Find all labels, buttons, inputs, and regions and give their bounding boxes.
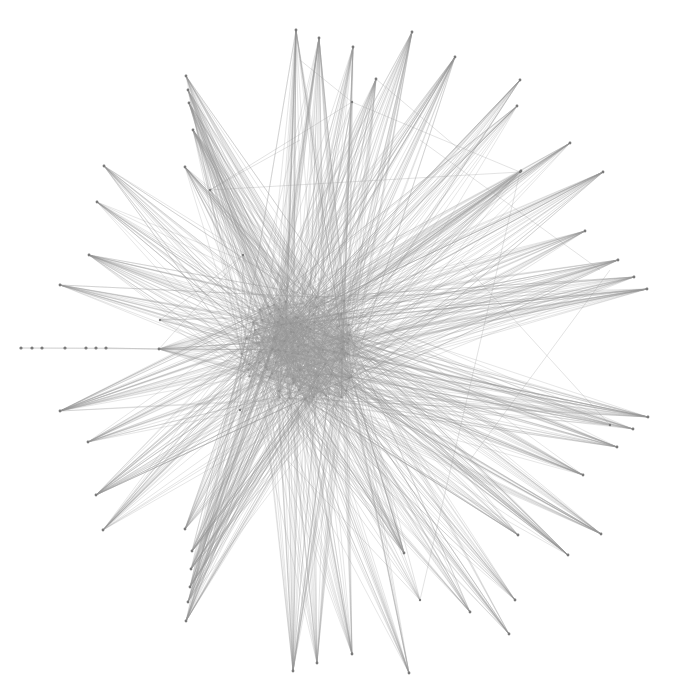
graph-node [351,101,353,103]
graph-node [647,416,650,419]
graph-node [59,410,62,413]
graph-node [338,325,340,327]
graph-node [280,324,282,326]
graph-node [567,554,570,557]
graph-node [318,37,321,40]
graph-node [281,316,283,318]
graph-node [189,586,192,589]
graph-node [454,56,457,59]
graph-node [508,633,511,636]
graph-node [96,201,99,204]
graph-node [279,315,281,317]
graph-node [632,428,635,431]
graph-node [347,353,349,355]
graph-node [343,354,345,356]
graph-node [275,362,277,364]
graph-node [295,316,297,318]
graph-node [325,395,327,397]
graph-edge [350,377,568,555]
graph-node [268,376,270,378]
graph-node [254,329,256,331]
graph-edge [316,32,412,297]
graph-node [285,351,287,353]
graph-node [267,305,269,307]
graph-node [277,321,279,323]
graph-node [104,346,107,349]
graph-node [297,353,299,355]
graph-node [158,348,161,351]
graph-node [271,372,273,374]
graph-node [191,550,194,553]
graph-node [185,620,188,623]
graph-edge [348,354,515,600]
graph-node [265,366,267,368]
graph-node [602,171,605,174]
graph-node [306,326,308,328]
graph-node [285,317,287,319]
graph-node [291,353,293,355]
spoke-edges [60,30,648,673]
graph-node [419,599,421,601]
graph-node [298,389,300,391]
graph-node [346,342,348,344]
graph-node [252,321,254,323]
graph-node [242,254,244,256]
graph-node [351,653,354,656]
graph-node [87,441,90,444]
graph-node [646,288,649,291]
graph-node [278,390,280,392]
graph-node [408,672,411,675]
graph-node [300,323,302,325]
graph-node [30,346,33,349]
graph-node [317,375,319,377]
graph-node [159,319,161,321]
graph-node [84,346,87,349]
network-graph [0,0,673,693]
graph-node [307,351,309,353]
graph-node [192,129,195,132]
graph-node [609,424,611,426]
graph-node [184,166,187,169]
graph-node [352,46,355,49]
graph-node [299,369,301,371]
graph-node [347,338,349,340]
graph-node [290,331,292,333]
graph-node [259,308,261,310]
graph-node [241,353,243,355]
graph-edge [346,391,420,600]
graph-node [342,335,344,337]
graph-node [285,301,287,303]
graph-node [345,352,347,354]
graph-node [341,397,343,399]
graph-node [304,398,306,400]
graph-node [324,363,326,365]
graph-node [187,89,190,92]
graph-node [282,324,284,326]
graph-node [274,350,276,352]
graph-node [312,387,314,389]
graph-node [339,343,341,345]
graph-node [375,78,378,81]
graph-edge [104,166,260,309]
graph-node [258,361,260,363]
graph-node [517,534,520,537]
graph-node [272,348,274,350]
graph-node [239,409,241,411]
graph-node [584,230,587,233]
graph-node [616,446,619,449]
graph-node [259,351,261,353]
graph-node [102,529,105,532]
graph-node [316,306,318,308]
graph-node [617,259,620,262]
graph-node [261,319,263,321]
graph-node [278,349,280,351]
graph-node [600,533,603,536]
graph-node [348,324,350,326]
graph-node [295,29,298,32]
graph-node [19,346,22,349]
graph-nodes [19,29,649,675]
graph-node [569,142,572,145]
graph-node [337,312,339,314]
graph-node [340,313,342,315]
graph-node [297,317,299,319]
